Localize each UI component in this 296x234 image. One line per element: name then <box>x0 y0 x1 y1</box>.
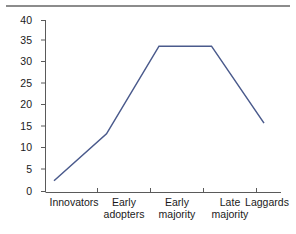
x-axis-ticks <box>98 188 257 193</box>
y-axis-ticks <box>41 21 46 192</box>
y-tick-label-0: 0 <box>10 186 32 197</box>
y-tick-label-30: 30 <box>10 56 32 67</box>
y-tick-label-15: 15 <box>10 121 32 132</box>
x-tick-label-laggards-line1: Laggards <box>222 197 296 209</box>
y-tick-label-20: 20 <box>10 99 32 110</box>
y-tick-label-5: 5 <box>10 164 32 175</box>
y-tick-label-25: 25 <box>10 78 32 89</box>
chart-figure: 40 35 30 25 20 15 10 5 0 Innovators Earl… <box>0 0 296 234</box>
data-series-line <box>54 46 264 181</box>
x-tick-label-late-majority-line2: majority <box>185 209 275 221</box>
y-tick-label-40: 40 <box>10 15 32 26</box>
y-tick-label-10: 10 <box>10 142 32 153</box>
x-tick-label-laggards: Laggards <box>222 197 296 209</box>
y-tick-label-35: 35 <box>10 35 32 46</box>
